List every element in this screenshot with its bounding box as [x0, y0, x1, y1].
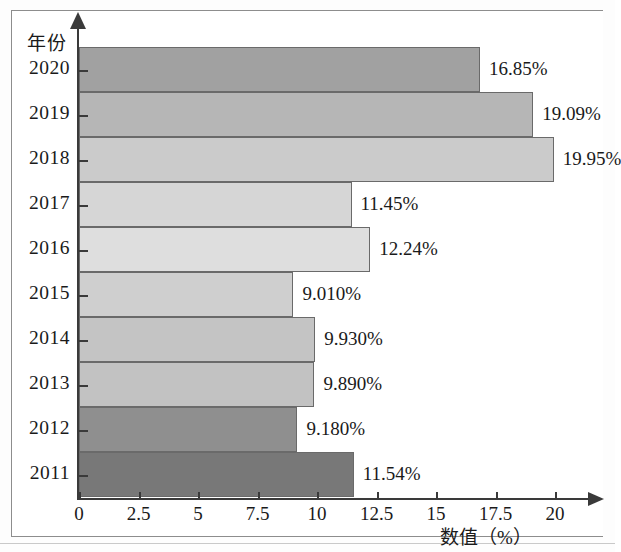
bar-2012	[79, 407, 297, 452]
bar-value-label-2020: 16.85%	[489, 58, 548, 80]
bar-2014	[79, 317, 315, 362]
x-tick-label-7.5: 7.5	[246, 503, 270, 525]
y-axis-label-2015: 2015	[14, 282, 70, 304]
y-tick-mark-2015	[79, 295, 88, 297]
y-axis-label-2016: 2016	[14, 237, 70, 259]
x-axis-arrow-icon	[588, 492, 604, 506]
bar-2011	[79, 452, 354, 497]
bar-2015	[79, 272, 293, 317]
y-axis-label-2011: 2011	[14, 462, 70, 484]
y-tick-mark-2012	[79, 430, 88, 432]
x-tick-mark-2.5	[139, 492, 141, 499]
x-tick-label-15: 15	[427, 503, 446, 525]
y-axis-label-2017: 2017	[14, 192, 70, 214]
bar-value-label-2016: 12.24%	[379, 238, 438, 260]
y-tick-mark-2017	[79, 205, 88, 207]
x-tick-mark-5	[198, 492, 200, 499]
bar-value-label-2019: 19.09%	[542, 103, 601, 125]
bar-2016	[79, 227, 370, 272]
bar-2013	[79, 362, 314, 407]
bar-value-label-2012: 9.180%	[306, 418, 365, 440]
x-tick-label-2.5: 2.5	[127, 503, 151, 525]
x-tick-label-10: 10	[308, 503, 327, 525]
y-tick-mark-2018	[79, 160, 88, 162]
y-axis-arrow-icon	[70, 12, 86, 29]
x-tick-label-0: 0	[74, 503, 84, 525]
y-tick-mark-2014	[79, 340, 88, 342]
x-tick-label-17.5: 17.5	[479, 503, 512, 525]
y-tick-mark-2013	[79, 385, 88, 387]
y-axis-label-2013: 2013	[14, 372, 70, 394]
y-tick-mark-2016	[79, 250, 88, 252]
bar-value-label-2015: 9.010%	[302, 283, 361, 305]
y-tick-mark-2020	[79, 70, 88, 72]
bar-value-label-2014: 9.930%	[324, 328, 383, 350]
y-axis-label-2012: 2012	[14, 417, 70, 439]
y-tick-mark-2011	[79, 475, 88, 477]
x-tick-mark-15	[436, 492, 438, 499]
x-tick-label-12.5: 12.5	[360, 503, 393, 525]
x-tick-label-20: 20	[546, 503, 565, 525]
x-tick-label-5: 5	[193, 503, 203, 525]
y-axis-label-2018: 2018	[14, 147, 70, 169]
bar-value-label-2017: 11.45%	[361, 193, 419, 215]
bar-2020	[79, 47, 480, 92]
x-axis-title: 数值（%）	[440, 522, 532, 549]
x-tick-mark-0	[79, 492, 81, 499]
x-axis-line	[77, 498, 593, 500]
bar-value-label-2011: 11.54%	[363, 463, 421, 485]
bar-2018	[79, 137, 554, 182]
bar-value-label-2018: 19.95%	[563, 148, 621, 170]
y-axis-label-2019: 2019	[14, 102, 70, 124]
y-axis-label-2020: 2020	[14, 57, 70, 79]
x-tick-mark-10	[317, 492, 319, 499]
y-axis-label-2014: 2014	[14, 327, 70, 349]
bar-2019	[79, 92, 533, 137]
x-tick-mark-12.5	[377, 492, 379, 499]
x-tick-mark-20	[555, 492, 557, 499]
x-tick-mark-7.5	[258, 492, 260, 499]
bar-value-label-2013: 9.890%	[323, 373, 382, 395]
bar-2017	[79, 182, 352, 227]
y-tick-mark-2019	[79, 115, 88, 117]
y-axis-title: 年份	[27, 28, 66, 55]
x-tick-mark-17.5	[496, 492, 498, 499]
